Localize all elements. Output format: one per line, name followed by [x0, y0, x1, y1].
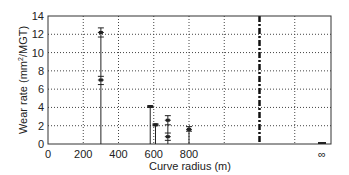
x-tick-label: 800 [180, 148, 198, 160]
data-marker [154, 123, 158, 126]
x-axis-ticks: 0200400600800 [45, 148, 198, 160]
data-marker [318, 142, 326, 144]
y-tick-label: 6 [38, 83, 44, 95]
grid-lines [48, 16, 331, 144]
y-tick-label: 10 [32, 47, 44, 59]
data-marker [187, 128, 191, 131]
y-tick-label: 8 [38, 65, 44, 77]
x-tick-label: 200 [74, 148, 92, 160]
y-tick-label: 12 [32, 28, 44, 40]
y-axis-label: Wear rate (mm2/MGT) [17, 26, 29, 134]
x-tick-label: 0 [45, 148, 51, 160]
data-points [98, 28, 326, 144]
y-tick-label: 2 [38, 120, 44, 132]
data-marker [166, 135, 170, 138]
data-marker [99, 79, 103, 82]
data-marker [148, 105, 152, 108]
wear-rate-chart: 02468101214 0200400600800 ∞ Curve radius… [0, 0, 349, 175]
x-axis-label: Curve radius (m) [149, 160, 231, 172]
y-tick-label: 0 [38, 138, 44, 150]
y-tick-label: 4 [38, 101, 44, 113]
data-marker [166, 119, 170, 122]
x-tick-label: 400 [109, 148, 127, 160]
data-marker [99, 31, 103, 34]
x-tick-label: 600 [145, 148, 163, 160]
x-infinity-label: ∞ [318, 148, 326, 160]
y-axis-ticks: 02468101214 [32, 10, 44, 150]
y-tick-label: 14 [32, 10, 44, 22]
